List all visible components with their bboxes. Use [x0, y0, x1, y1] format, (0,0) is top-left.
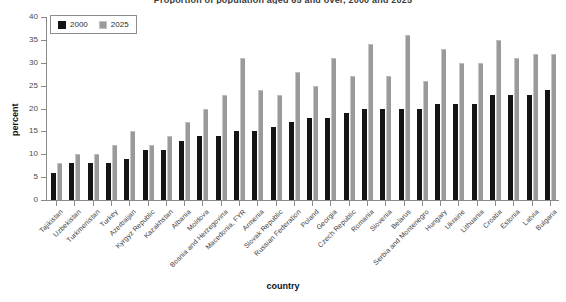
bar-group: [51, 17, 63, 200]
bar-2025: [331, 58, 336, 200]
bar-2000: [143, 150, 148, 200]
bar-2025: [496, 40, 501, 200]
x-axis-tick: [330, 201, 331, 206]
bar-2025: [222, 95, 227, 200]
bar-2000: [216, 136, 221, 200]
bar-2000: [161, 150, 166, 200]
y-axis-tick: [41, 200, 47, 201]
x-axis-label: country: [0, 281, 566, 291]
x-axis-tick: [513, 201, 514, 206]
x-axis-line: [46, 200, 559, 201]
bar-group: [453, 17, 465, 200]
bar-2000: [88, 163, 93, 200]
bar-2000: [453, 104, 458, 200]
bar-group: [325, 17, 337, 200]
legend-label-2000: 2000: [70, 21, 88, 29]
bar-2025: [386, 76, 391, 200]
x-axis-tick: [440, 201, 441, 206]
bar-2000: [69, 163, 74, 200]
bar-group: [380, 17, 392, 200]
x-axis-category-label: Estonia: [499, 208, 521, 230]
plot-area: [47, 17, 559, 200]
y-axis-tick-label: 40: [20, 13, 38, 21]
bar-2000: [399, 109, 404, 201]
bar-2025: [277, 95, 282, 200]
x-axis-tick: [477, 201, 478, 206]
bar-2025: [533, 54, 538, 200]
bar-2000: [545, 90, 550, 200]
x-axis-tick: [239, 201, 240, 206]
x-axis-tick: [184, 201, 185, 206]
x-axis-tick: [148, 201, 149, 206]
bar-2025: [112, 145, 117, 200]
bar-2000: [179, 141, 184, 200]
bar-group: [69, 17, 81, 200]
x-axis-tick: [129, 201, 130, 206]
bar-group: [216, 17, 228, 200]
x-axis-tick: [367, 201, 368, 206]
x-axis-tick: [532, 201, 533, 206]
legend-label-2025: 2025: [111, 21, 129, 29]
bar-group: [472, 17, 484, 200]
x-axis-tick: [550, 201, 551, 206]
bar-group: [527, 17, 539, 200]
chart-legend: 2000 2025: [50, 15, 137, 34]
x-axis-tick: [495, 201, 496, 206]
bar-2000: [362, 109, 367, 201]
bar-2025: [75, 154, 80, 200]
bar-2000: [508, 95, 513, 200]
bar-group: [179, 17, 191, 200]
bar-2025: [94, 154, 99, 200]
bar-group: [106, 17, 118, 200]
bar-2025: [514, 58, 519, 200]
bar-group: [88, 17, 100, 200]
bar-group: [143, 17, 155, 200]
bar-2000: [252, 131, 257, 200]
y-axis-tick-label: 0: [20, 196, 38, 204]
bar-group: [161, 17, 173, 200]
bar-group: [545, 17, 557, 200]
legend-item-2000: 2000: [58, 21, 88, 29]
bar-2000: [435, 104, 440, 200]
bar-group: [490, 17, 502, 200]
bar-2000: [307, 118, 312, 200]
bar-group: [362, 17, 374, 200]
bar-group: [124, 17, 136, 200]
legend-item-2025: 2025: [99, 21, 129, 29]
bar-2025: [368, 44, 373, 200]
bar-2000: [197, 136, 202, 200]
y-axis-label: percent: [8, 85, 22, 155]
bar-2000: [472, 104, 477, 200]
x-axis-tick: [404, 201, 405, 206]
bar-group: [271, 17, 283, 200]
bar-2000: [417, 109, 422, 201]
y-axis-tick-label: 15: [20, 127, 38, 135]
bar-chart: Proportion of population aged 65 and ove…: [0, 0, 566, 302]
bar-group: [435, 17, 447, 200]
bar-2025: [130, 131, 135, 200]
bar-2025: [185, 122, 190, 200]
x-axis-tick: [166, 201, 167, 206]
bar-2025: [149, 145, 154, 200]
x-axis-tick: [257, 201, 258, 206]
x-axis-tick: [385, 201, 386, 206]
bar-2000: [234, 131, 239, 200]
bar-2000: [527, 95, 532, 200]
y-axis-tick-label: 20: [20, 105, 38, 113]
x-axis-tick: [74, 201, 75, 206]
bar-2025: [167, 136, 172, 200]
bar-2025: [551, 54, 556, 200]
x-axis-tick: [276, 201, 277, 206]
x-axis-tick: [111, 201, 112, 206]
bar-2000: [380, 109, 385, 201]
bar-group: [197, 17, 209, 200]
bar-group: [289, 17, 301, 200]
bar-2000: [51, 173, 56, 200]
x-axis-tick: [93, 201, 94, 206]
bar-2000: [344, 113, 349, 200]
bar-group: [234, 17, 246, 200]
black-square-icon: [58, 21, 66, 29]
bar-2025: [405, 35, 410, 200]
bar-group: [508, 17, 520, 200]
y-axis-tick-label: 10: [20, 150, 38, 158]
